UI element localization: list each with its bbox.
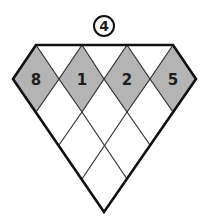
lattice-line	[59, 112, 82, 145]
cell-number: 2	[122, 71, 132, 89]
cell-number: 1	[77, 71, 87, 89]
inner-lattice	[36, 112, 173, 212]
lattice-line	[127, 112, 150, 145]
cell-number: 5	[168, 71, 178, 89]
number-diamond-puzzle: 4 8 1 2 5	[0, 0, 201, 216]
cell-number: 8	[31, 71, 41, 89]
target-number: 4	[99, 18, 109, 34]
target-badge: 4	[94, 16, 114, 36]
